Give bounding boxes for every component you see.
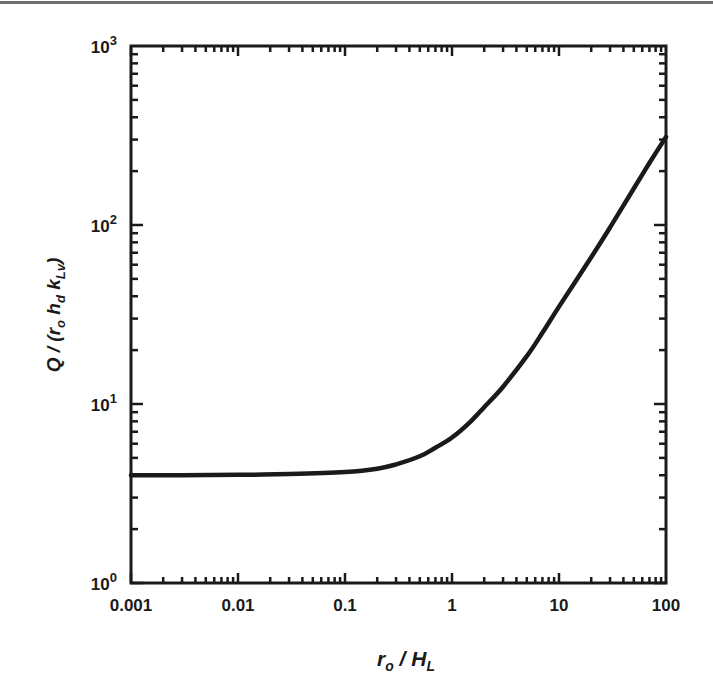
x-axis-label: ro / HL bbox=[377, 647, 435, 674]
x-tick-label: 1 bbox=[447, 596, 456, 615]
x-tick-label: 0.001 bbox=[110, 596, 153, 615]
x-tick-label: 0.01 bbox=[221, 596, 254, 615]
axis-ticks bbox=[131, 46, 666, 583]
x-tick-labels: 0.0010.010.1110100 bbox=[110, 596, 680, 615]
data-series-line bbox=[131, 137, 666, 475]
y-tick-label: 101 bbox=[91, 391, 117, 415]
log-log-line-chart: 0.0010.010.1110100 100101102103 ro / HL … bbox=[0, 0, 713, 699]
y-axis-label: Q / (ro hd kLv) bbox=[43, 258, 68, 373]
x-tick-label: 0.1 bbox=[333, 596, 357, 615]
y-tick-label: 103 bbox=[91, 33, 117, 57]
x-tick-label: 100 bbox=[652, 596, 680, 615]
y-tick-label: 102 bbox=[91, 212, 117, 236]
y-tick-labels: 100101102103 bbox=[91, 33, 117, 594]
plot-frame bbox=[131, 46, 666, 583]
y-tick-label: 100 bbox=[91, 570, 117, 594]
x-tick-label: 10 bbox=[550, 596, 569, 615]
